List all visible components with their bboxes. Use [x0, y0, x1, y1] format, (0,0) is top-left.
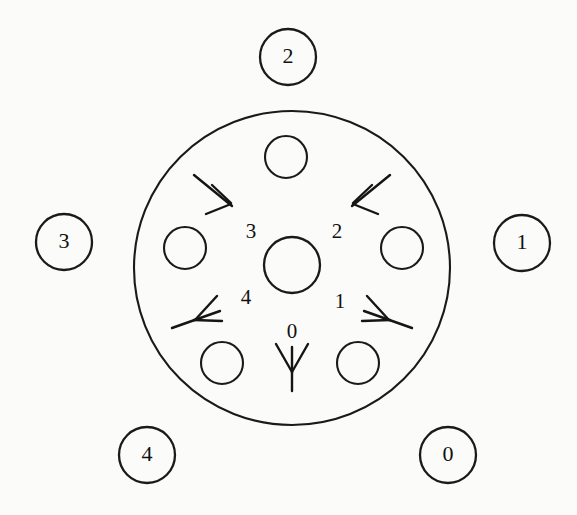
marker-2-barb-upper: [353, 185, 372, 203]
marker-3-shaft: [194, 175, 232, 206]
diagram-canvas: 0 1 2 3 4 2: [0, 0, 577, 515]
port-circle-left: [164, 227, 206, 269]
marker-3-barb-upper: [212, 185, 231, 203]
direction-label-4: 4: [241, 285, 252, 309]
port-circle-bottom-left: [201, 342, 243, 384]
direction-marker-3: [194, 175, 232, 214]
direction-label-2: 2: [332, 219, 343, 243]
direction-label-1: 1: [335, 289, 346, 313]
direction-marker-0: [276, 344, 308, 391]
hub-circle: [264, 237, 320, 293]
marker-0-barb-left: [276, 344, 292, 372]
direction-label-3: 3: [246, 219, 257, 243]
outer-node-label-0: 0: [443, 441, 454, 466]
marker-3-barb-lower: [206, 204, 231, 214]
direction-marker-4: [172, 296, 222, 328]
port-circle-top: [265, 136, 307, 178]
port-circle-bottom-right: [337, 342, 379, 384]
port-circle-right: [381, 227, 423, 269]
outer-node-label-4: 4: [142, 441, 153, 466]
outer-node-label-1: 1: [517, 229, 528, 254]
marker-4-barb-lower: [194, 320, 222, 321]
outer-node-label-2: 2: [283, 43, 294, 68]
outer-node-label-3: 3: [59, 228, 70, 253]
radial-hub-diagram: 0 1 2 3 4 2: [0, 0, 577, 515]
marker-0-barb-right: [292, 344, 308, 372]
direction-label-0: 0: [287, 319, 298, 343]
marker-1-barb-lower: [362, 320, 390, 321]
marker-2-barb-lower: [353, 204, 378, 214]
marker-2-shaft: [352, 175, 390, 206]
direction-marker-1: [362, 296, 412, 328]
direction-marker-2: [352, 175, 390, 214]
